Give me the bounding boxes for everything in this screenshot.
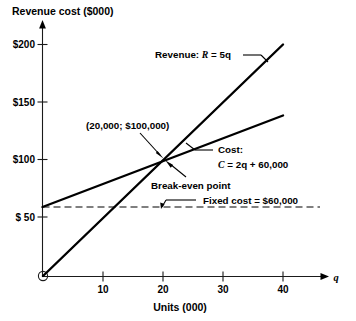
revenue-annotation-suffix: = 5q bbox=[208, 49, 231, 60]
break-even-chart: Revenue cost ($000) $200 $150 $100 $ 50 … bbox=[0, 0, 356, 321]
breakeven-coord-arrowhead-icon bbox=[156, 151, 164, 159]
breakeven-point-label: Break-even point bbox=[151, 180, 231, 191]
cost-annotation-equation: C = 2q + 60,000 bbox=[218, 159, 289, 170]
x-tick-label-40: 40 bbox=[277, 284, 289, 295]
cost-annotation-title: Cost: bbox=[218, 144, 243, 155]
x-tick-label-20: 20 bbox=[157, 284, 169, 295]
y-tick-label-150: $150 bbox=[13, 97, 36, 108]
x-axis-arrow-icon bbox=[321, 273, 330, 280]
cost-annotation-equation-suffix: = 2q + 60,000 bbox=[225, 159, 289, 170]
fixed-cost-label: Fixed cost = $60,000 bbox=[203, 195, 299, 206]
y-tick-label-200: $200 bbox=[13, 39, 36, 50]
y-axis-arrow-icon bbox=[39, 20, 46, 29]
breakeven-point-arrowhead-icon bbox=[166, 161, 174, 168]
x-axis-title: Units (000) bbox=[153, 301, 207, 313]
revenue-annotation: Revenue: R = 5q bbox=[155, 49, 231, 60]
y-tick-label-50: $ 50 bbox=[16, 212, 36, 223]
breakeven-coordinate-label: (20,000; $100,000) bbox=[86, 120, 169, 131]
breakeven-point-arrow-line bbox=[170, 164, 186, 177]
y-tick-label-100: $100 bbox=[13, 154, 36, 165]
chart-title: Revenue cost ($000) bbox=[12, 5, 114, 17]
chart-canvas: Revenue cost ($000) $200 $150 $100 $ 50 … bbox=[0, 0, 356, 321]
revenue-annotation-prefix: Revenue: bbox=[155, 49, 202, 60]
cost-leader-hook bbox=[186, 143, 195, 150]
x-tick-label-10: 10 bbox=[97, 284, 109, 295]
x-axis-symbol: q bbox=[333, 272, 338, 283]
x-tick-label-30: 30 bbox=[217, 284, 229, 295]
